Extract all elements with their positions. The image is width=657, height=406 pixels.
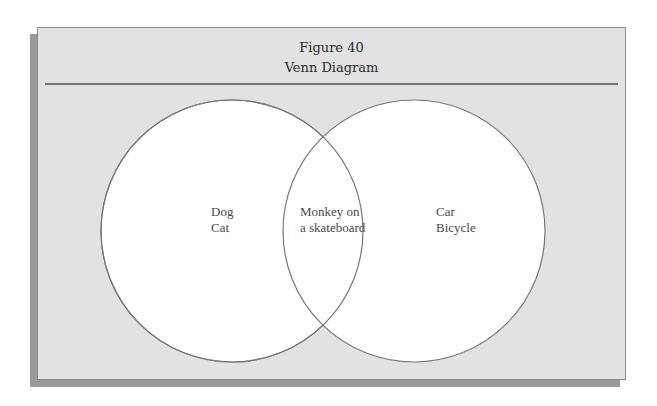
left-item-2: Cat bbox=[211, 220, 233, 236]
intersection-label: Monkey on a skateboard bbox=[300, 204, 365, 236]
right-item-1: Car bbox=[436, 204, 476, 220]
right-item-2: Bicycle bbox=[436, 220, 476, 236]
left-set-label: Dog Cat bbox=[211, 204, 233, 236]
left-item-1: Dog bbox=[211, 204, 233, 220]
right-set-label: Car Bicycle bbox=[436, 204, 476, 236]
intersection-line-1: Monkey on bbox=[300, 204, 365, 220]
intersection-line-2: a skateboard bbox=[300, 220, 365, 236]
venn-diagram bbox=[0, 0, 657, 406]
